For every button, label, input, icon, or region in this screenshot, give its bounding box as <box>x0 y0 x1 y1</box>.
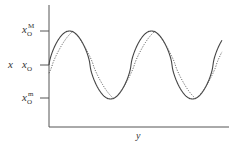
solid-curve <box>49 31 222 99</box>
tick-label-mid: xO <box>22 59 32 70</box>
tick-label-min: xOm <box>22 92 33 103</box>
x-axis-label: y <box>136 131 140 141</box>
tick-label-max: xOM <box>22 24 34 35</box>
dotted-curve <box>49 32 222 99</box>
oscillation-plot <box>0 0 237 149</box>
y-axis-label: x <box>8 59 13 70</box>
